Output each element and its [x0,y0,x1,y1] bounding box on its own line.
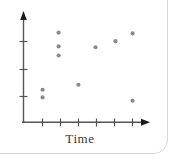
x-axis-arrowhead [141,119,150,126]
scatter-point [57,53,61,57]
scatter-points-group [40,30,134,102]
scatter-point [93,45,97,49]
scatter-point [40,88,44,92]
scatter-point [57,44,61,48]
y-axis-arrowhead [20,11,27,20]
scatter-point [130,99,134,103]
scatter-point [40,95,44,99]
scatter-point [76,83,80,87]
scatter-point [130,31,134,35]
x-axis-label: Time [0,131,160,147]
scatter-point [113,39,117,43]
scatter-point [57,30,61,34]
scatterplot-figure: Time [0,0,188,161]
